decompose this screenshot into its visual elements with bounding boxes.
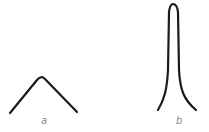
curve-a-broad-peak <box>10 77 77 113</box>
label-b: b <box>176 116 182 126</box>
curves-svg <box>0 0 209 132</box>
diagram-canvas: a b <box>0 0 209 132</box>
curve-b-sharp-peak <box>158 4 196 110</box>
label-a: a <box>41 116 47 126</box>
